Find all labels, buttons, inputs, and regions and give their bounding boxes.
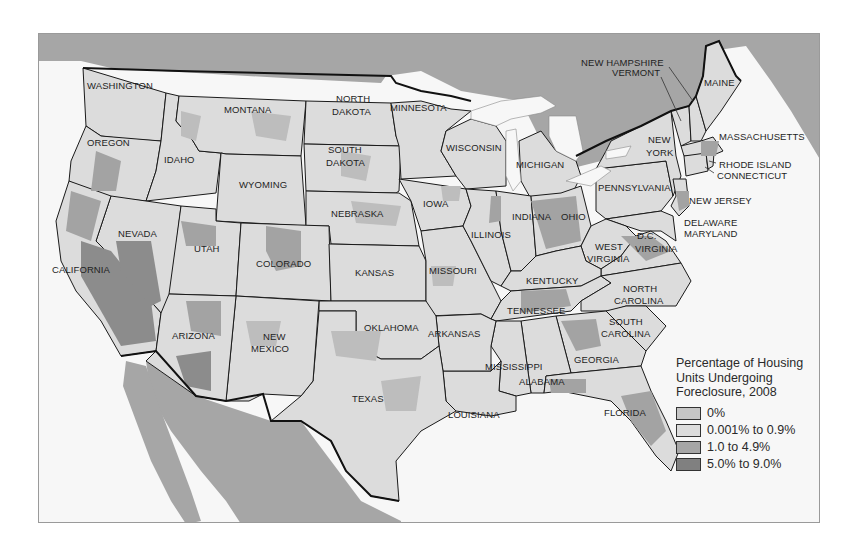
legend-item-1: 0.001% to 0.9% — [676, 422, 826, 439]
label-georgia: GEORGIA — [574, 354, 620, 365]
legend-title-line-1: Percentage of Housing — [676, 356, 826, 371]
label-washington: WASHINGTON — [87, 80, 153, 91]
label-idaho: IDAHO — [164, 154, 195, 165]
label-montana: MONTANA — [224, 104, 272, 115]
label-west-virginia-1: WEST — [595, 241, 623, 252]
label-tennessee: TENNESSEE — [507, 305, 565, 316]
label-missouri: MISSOURI — [429, 265, 477, 276]
label-mississippi: MISSISSIPPI — [485, 361, 543, 372]
label-colorado: COLORADO — [256, 258, 311, 269]
label-kentucky: KENTUCKY — [526, 275, 579, 286]
label-connecticut: CONNECTICUT — [717, 170, 787, 181]
label-maryland: MARYLAND — [684, 228, 737, 239]
legend-title-line-2: Units Undergoing — [676, 371, 826, 386]
label-louisiana: LOUISIANA — [448, 409, 500, 420]
legend-swatch-low — [676, 424, 701, 437]
label-ohio: OHIO — [561, 211, 586, 222]
map-legend: Percentage of Housing Units Undergoing F… — [676, 356, 826, 473]
label-wyoming: WYOMING — [239, 179, 287, 190]
legend-label: 0% — [707, 406, 725, 420]
state-wisconsin[interactable] — [441, 119, 506, 189]
label-west-virginia-2: VIRGINIA — [587, 253, 630, 264]
label-texas: TEXAS — [352, 393, 384, 404]
label-alabama: ALABAMA — [519, 376, 565, 387]
label-arkansas: ARKANSAS — [428, 328, 481, 339]
label-maine: MAINE — [704, 77, 735, 88]
label-north-carolina-1: NORTH — [623, 283, 657, 294]
label-indiana: INDIANA — [512, 211, 552, 222]
label-north-carolina-2: CAROLINA — [614, 295, 664, 306]
legend-label: 0.001% to 0.9% — [707, 423, 795, 437]
label-south-dakota-1: SOUTH — [328, 144, 362, 155]
label-rhode-island: RHODE ISLAND — [719, 159, 792, 170]
legend-item-0: 0% — [676, 405, 826, 422]
label-north-dakota-2: DAKOTA — [332, 106, 372, 117]
label-new-mexico-2: MEXICO — [251, 343, 289, 354]
label-new-york-2: YORK — [646, 147, 674, 158]
label-north-dakota-1: NORTH — [336, 93, 370, 104]
label-virginia: VIRGINIA — [635, 243, 678, 254]
label-california: CALIFORNIA — [52, 264, 111, 275]
label-new-jersey: NEW JERSEY — [689, 195, 752, 206]
label-south-dakota-2: DAKOTA — [326, 157, 366, 168]
label-new-york-1: NEW — [648, 134, 670, 145]
legend-title-line-3: Foreclosure, 2008 — [676, 385, 826, 400]
label-nebraska: NEBRASKA — [331, 208, 384, 219]
label-pennsylvania: PENNSYLVANIA — [598, 182, 671, 193]
label-michigan: MICHIGAN — [516, 159, 564, 170]
legend-item-2: 1.0 to 4.9% — [676, 439, 826, 456]
label-minnesota: MINNESOTA — [390, 102, 447, 113]
label-massachusetts: MASSACHUSETTS — [719, 131, 805, 142]
state-connecticut[interactable] — [684, 153, 708, 176]
legend-title: Percentage of Housing Units Undergoing F… — [676, 356, 826, 400]
label-arizona: ARIZONA — [172, 330, 215, 341]
label-iowa: IOWA — [423, 198, 449, 209]
legend-label: 1.0 to 4.9% — [707, 440, 770, 454]
label-oklahoma: OKLAHOMA — [364, 322, 419, 333]
legend-label: 5.0% to 9.0% — [707, 457, 781, 471]
label-oregon: OREGON — [87, 137, 130, 148]
label-florida: FLORIDA — [604, 407, 646, 418]
legend-swatch-0-percent — [676, 407, 701, 420]
label-south-carolina-1: SOUTH — [609, 316, 643, 327]
label-utah: UTAH — [194, 243, 220, 254]
label-south-carolina-2: CAROLINA — [601, 328, 651, 339]
legend-item-3: 5.0% to 9.0% — [676, 456, 826, 473]
label-wisconsin: WISCONSIN — [446, 142, 502, 153]
label-vermont: VERMONT — [612, 67, 660, 78]
label-delaware: DELAWARE — [684, 217, 737, 228]
legend-swatch-medium — [676, 441, 701, 454]
label-new-mexico-1: NEW — [263, 331, 285, 342]
label-kansas: KANSAS — [355, 267, 394, 278]
legend-swatch-high — [676, 458, 701, 471]
label-nevada: NEVADA — [118, 228, 158, 239]
label-illinois: ILLINOIS — [471, 229, 511, 240]
state-washington[interactable] — [83, 68, 166, 141]
label-dc: D.C. — [637, 230, 656, 241]
